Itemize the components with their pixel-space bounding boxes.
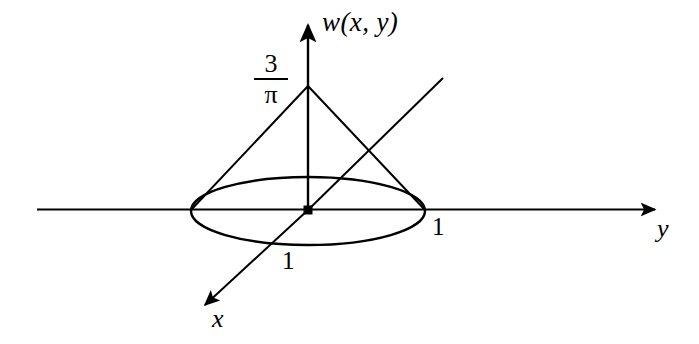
- x-axis-label: x: [212, 306, 224, 332]
- apex-height-label: 3 π: [248, 50, 294, 109]
- cone-graph-figure: w(x, y) y x 1 1 3 π: [0, 0, 699, 344]
- x-axis-line-back: [308, 78, 443, 210]
- cone-slant-right: [308, 86, 425, 210]
- w-axis-label: w(x, y): [322, 9, 398, 36]
- y-axis-label: y: [657, 216, 669, 242]
- y-axis-tick-label-one: 1: [432, 214, 445, 239]
- figure-canvas: [0, 0, 699, 344]
- x-axis-tick-label-one: 1: [282, 248, 295, 273]
- apex-height-denominator: π: [248, 81, 294, 108]
- origin-marker: [304, 206, 313, 215]
- apex-height-numerator: 3: [248, 50, 294, 77]
